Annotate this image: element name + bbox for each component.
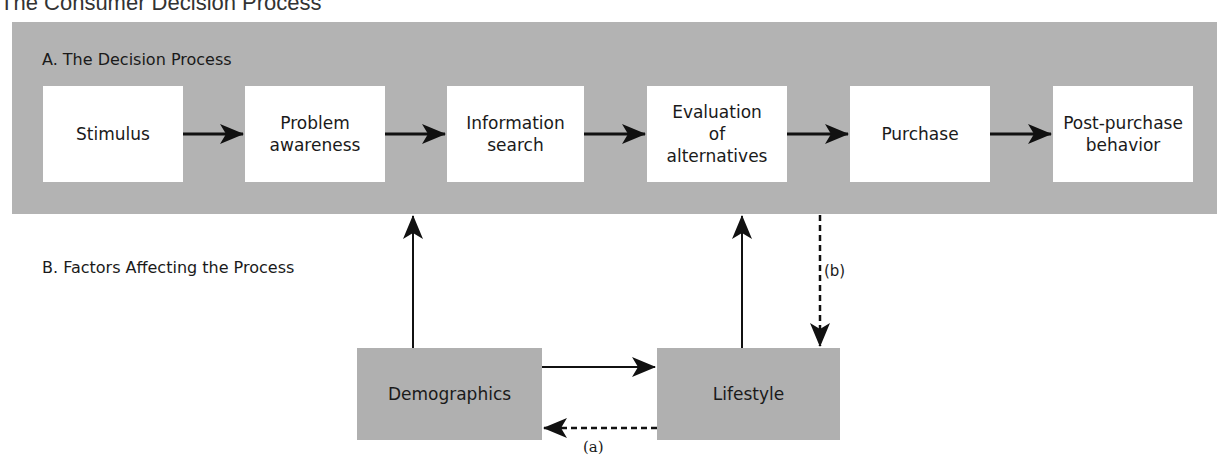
annotation-a: (a)	[583, 438, 604, 456]
arrows-layer	[0, 0, 1228, 465]
annotation-b: (b)	[824, 262, 845, 280]
